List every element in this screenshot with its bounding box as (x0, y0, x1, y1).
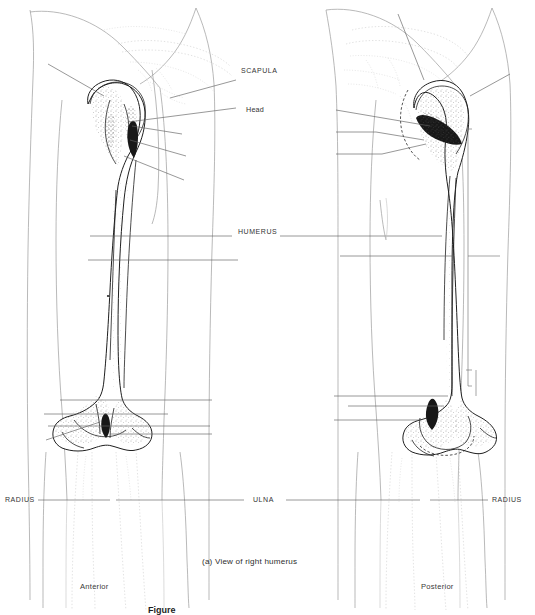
upper-contours (152, 70, 388, 240)
label-radius-right: RADIUS (492, 496, 522, 503)
label-humerus: HUMERUS (238, 228, 277, 235)
label-head: Head (246, 106, 264, 113)
label-radius-left: RADIUS (5, 496, 35, 503)
view-label-posterior: Posterior (421, 582, 454, 591)
right-body-outline (326, 8, 511, 608)
figure-subcaption: (a) View of right humerus (202, 557, 297, 566)
label-ulna: ULNA (253, 496, 274, 503)
figure-number-caption: Figure (148, 605, 176, 615)
right-humerus-bone (401, 80, 497, 456)
label-scapula: SCAPULA (241, 67, 278, 74)
left-scapula-ghost (104, 27, 232, 104)
left-humerus-bone (53, 80, 152, 451)
view-label-anterior: Anterior (80, 582, 109, 591)
